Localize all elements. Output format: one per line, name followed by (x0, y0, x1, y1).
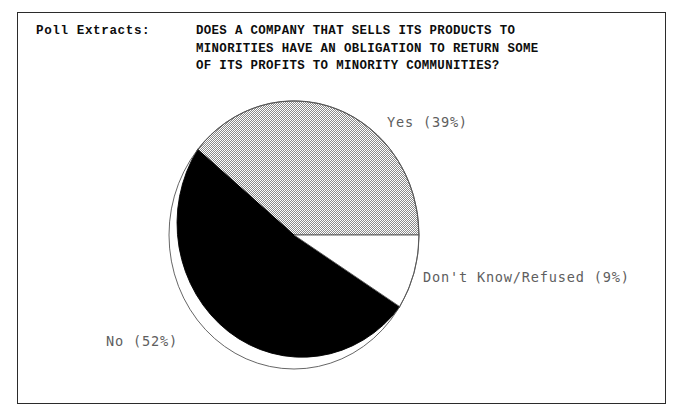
pie-chart-area: Yes (39%) Don't Know/Refused (9%) No (52… (18, 13, 667, 405)
figure-frame: Poll Extracts: DOES A COMPANY THAT SELLS… (17, 12, 666, 404)
pie-label-dont-know-refused: Don't Know/Refused (9%) (423, 269, 630, 285)
pie-label-no: No (52%) (106, 333, 178, 349)
poll-extracts-pie-chart-figure: Poll Extracts: DOES A COMPANY THAT SELLS… (0, 0, 686, 417)
pie-label-yes: Yes (39%) (387, 114, 468, 130)
